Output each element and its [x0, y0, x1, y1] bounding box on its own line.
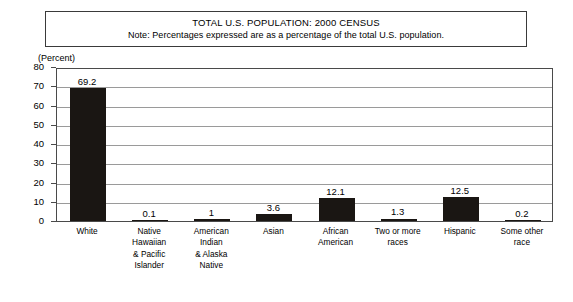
- bar-value-label: 69.2: [57, 76, 117, 87]
- bar: [505, 220, 541, 221]
- bar-value-label: 0.1: [119, 208, 179, 219]
- bar: [132, 220, 168, 221]
- y-axis-tick-label: 70: [18, 81, 44, 91]
- gridline: [57, 164, 552, 165]
- bar: [194, 219, 230, 221]
- y-axis-tick-label: 30: [18, 158, 44, 168]
- plot-area: [56, 68, 553, 222]
- bar-value-label: 3.6: [243, 202, 303, 213]
- bar: [319, 198, 355, 221]
- gridline: [57, 87, 552, 88]
- bar: [256, 214, 292, 221]
- y-axis-tick-label: 80: [18, 62, 44, 72]
- chart-canvas: TOTAL U.S. POPULATION: 2000 CENSUS Note:…: [0, 0, 573, 302]
- y-axis-tick-label: 20: [18, 178, 44, 188]
- x-axis-category-label: African American: [302, 226, 370, 249]
- x-axis-category-label: Some other race: [488, 226, 556, 249]
- gridline: [57, 107, 552, 108]
- bar-value-label: 1.3: [368, 206, 428, 217]
- x-axis-category-label: White: [53, 226, 121, 237]
- x-axis-category-label: Asian: [239, 226, 307, 237]
- y-axis-tick-label: 40: [18, 139, 44, 149]
- x-axis-category-label: Hispanic: [426, 226, 494, 237]
- bar: [70, 88, 106, 221]
- y-axis-tick-label: 0: [18, 216, 44, 226]
- x-axis-category-label: Native Hawaiian & Pacific Islander: [115, 226, 183, 271]
- gridline: [57, 126, 552, 127]
- y-axis-tick-label: 50: [18, 120, 44, 130]
- y-axis-tick-label: 60: [18, 101, 44, 111]
- chart-title: TOTAL U.S. POPULATION: 2000 CENSUS: [192, 16, 379, 29]
- bar-value-label: 1: [181, 207, 241, 218]
- chart-note: Note: Percentages expressed are as a per…: [128, 29, 444, 42]
- chart-title-box: TOTAL U.S. POPULATION: 2000 CENSUS Note:…: [45, 11, 527, 47]
- bar-value-label: 12.5: [430, 185, 490, 196]
- bar-value-label: 0.2: [492, 208, 552, 219]
- y-axis-tick-label: 10: [18, 197, 44, 207]
- bar: [381, 219, 417, 222]
- x-axis-category-label: Two or more races: [364, 226, 432, 249]
- bar-value-label: 12.1: [306, 186, 366, 197]
- gridline: [57, 145, 552, 146]
- x-axis-category-label: American Indian & Alaska Native: [177, 226, 245, 271]
- bar: [443, 197, 479, 221]
